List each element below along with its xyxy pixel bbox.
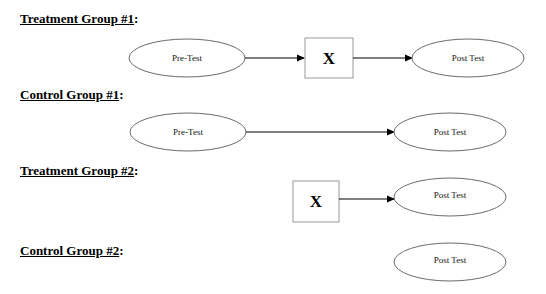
treatment-group-2-flow: X Post Test: [293, 178, 506, 222]
control-group-2-flow: Post Test: [394, 243, 506, 281]
research-design-diagram: Pre-Test X Post Test Pre-Test Post Test …: [0, 0, 546, 294]
treatment-label: X: [323, 49, 336, 68]
pretest-label: Pre-Test: [172, 53, 202, 63]
posttest-label: Post Test: [434, 190, 467, 200]
pretest-label: Pre-Test: [173, 127, 203, 137]
posttest-label: Post Test: [452, 53, 485, 63]
treatment-label: X: [310, 192, 323, 211]
posttest-label: Post Test: [434, 127, 467, 137]
treatment-group-1-flow: Pre-Test X Post Test: [129, 38, 524, 78]
control-group-1-flow: Pre-Test Post Test: [130, 113, 506, 151]
posttest-label: Post Test: [434, 255, 467, 265]
